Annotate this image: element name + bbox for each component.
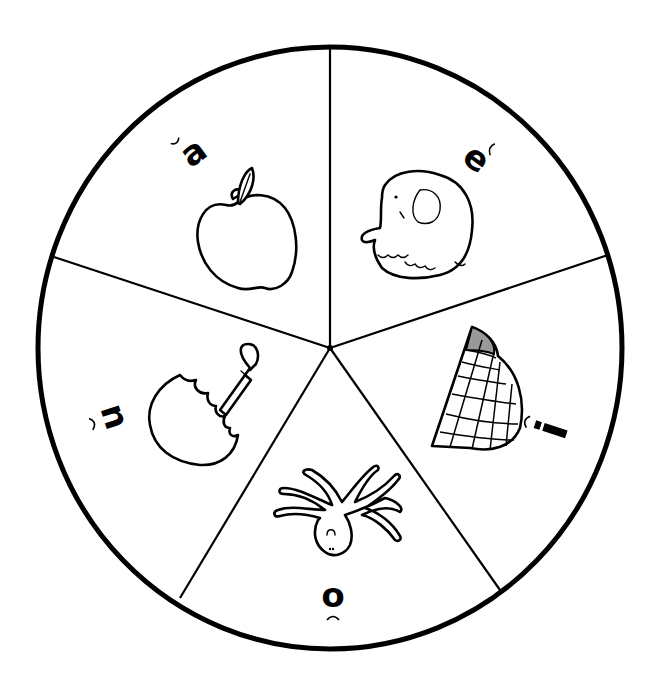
letter-o: o — [321, 580, 344, 620]
letter-o-label: o — [321, 580, 344, 620]
wheel-hub — [327, 345, 333, 351]
vowel-wheel: a e i — [0, 0, 652, 693]
